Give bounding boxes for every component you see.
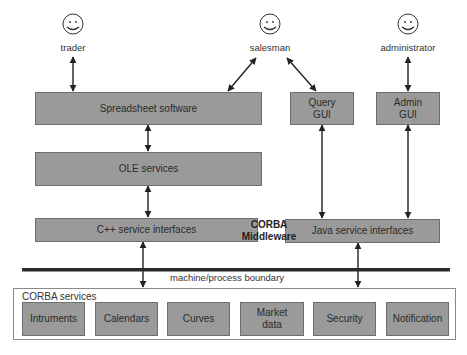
query-gui-label-line2: GUI: [313, 109, 331, 121]
spreadsheet-software-label: Spreadsheet software: [100, 103, 197, 115]
service-curves-label: Curves: [183, 313, 215, 325]
actor-administrator-label: administrator: [381, 42, 436, 53]
cpp-service-interfaces-label: C++ service interfaces: [97, 224, 197, 236]
service-intruments-box: Intruments: [22, 302, 85, 336]
ole-services-label: OLE services: [119, 163, 178, 175]
administrator-face-icon: [398, 14, 418, 34]
service-notification-label: Notification: [393, 313, 442, 325]
service-market-data-label-line1: Market: [257, 307, 288, 319]
query-gui-label-line1: Query: [308, 97, 335, 109]
admin-gui-box: Admin GUI: [376, 92, 440, 125]
corba-middleware-line1: CORBA: [241, 219, 297, 231]
service-security-label: Security: [326, 313, 362, 325]
actor-trader-label: trader: [61, 42, 86, 53]
salesman-face-icon: [260, 14, 280, 34]
arrow-salesman-spreadsheet: [228, 58, 256, 91]
service-calendars-box: Calendars: [95, 302, 158, 336]
machine-process-boundary-line: [22, 268, 450, 272]
admin-gui-label-line2: GUI: [399, 109, 417, 121]
java-service-interfaces-label: Java service interfaces: [312, 225, 414, 237]
service-security-box: Security: [313, 302, 376, 336]
corba-services-title: CORBA services: [22, 291, 96, 302]
service-market-data-box: Market data: [240, 302, 304, 336]
service-market-data-label-line2: data: [262, 319, 281, 331]
ole-services-box: OLE services: [35, 152, 262, 186]
service-notification-box: Notification: [386, 302, 449, 336]
service-intruments-label: Intruments: [30, 313, 77, 325]
service-calendars-label: Calendars: [104, 313, 150, 325]
corba-middleware-line2: Middleware: [241, 231, 297, 243]
query-gui-box: Query GUI: [290, 92, 354, 125]
trader-face-icon: [63, 14, 83, 34]
arrow-salesman-querygui: [287, 58, 316, 91]
actor-salesman-label: salesman: [250, 42, 291, 53]
admin-gui-label-line1: Admin: [394, 97, 422, 109]
spreadsheet-software-box: Spreadsheet software: [35, 92, 262, 125]
java-service-interfaces-box: Java service interfaces: [285, 219, 440, 243]
cpp-service-interfaces-box: C++ service interfaces: [35, 218, 258, 242]
machine-process-boundary-label: machine/process boundary: [170, 272, 284, 283]
corba-middleware-label: CORBA Middleware: [241, 219, 297, 243]
service-curves-box: Curves: [167, 302, 230, 336]
